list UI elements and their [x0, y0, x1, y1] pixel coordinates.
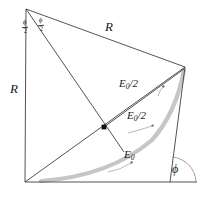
label-radius-left: R	[10, 82, 18, 95]
geometry-figure: R R E0/2 E0/2 E0 ϕ ϕ 2 ϕ 2	[0, 0, 205, 197]
label-radius-top: R	[105, 20, 113, 33]
label-amplitude-full: E0	[124, 149, 134, 162]
half-angle-right-denominator: 2	[38, 25, 45, 33]
amplitude-full-subscript: 0	[131, 153, 135, 162]
origin-to-right-vertex-line	[25, 67, 185, 182]
leader-line-upper	[158, 87, 163, 96]
amplitude-half-lower-base: E	[127, 109, 134, 121]
label-half-angle-right: ϕ 2	[37, 17, 44, 33]
half-angle-left-numerator: ϕ	[21, 19, 28, 27]
half-angle-left-denominator: 2	[22, 27, 29, 35]
amplitude-full-base: E	[124, 148, 131, 160]
label-angle-phi: ϕ	[172, 163, 178, 175]
amplitude-half-upper-suffix: /2	[129, 77, 138, 89]
leader-line-middle	[128, 126, 152, 133]
label-half-angle-left: ϕ 2	[21, 19, 28, 35]
amplitude-half-lower-suffix: /2	[137, 109, 146, 121]
leader-arrow-middle	[151, 124, 153, 126]
top-radius-line	[26, 9, 185, 67]
midpoint-marker	[102, 125, 107, 130]
label-amplitude-half-upper: E0/2	[119, 78, 138, 91]
amplitude-half-upper-base: E	[119, 77, 126, 89]
label-amplitude-half-lower: E0/2	[127, 110, 146, 123]
leader-arrow-upper	[162, 85, 164, 87]
half-angle-right-numerator: ϕ	[37, 17, 44, 25]
